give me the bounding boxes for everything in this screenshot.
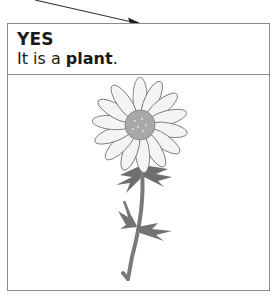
plant-illustration	[8, 75, 269, 290]
card-header: YES It is a plant.	[8, 24, 269, 75]
answer-subtitle: It is a plant.	[17, 49, 269, 69]
answer-title: YES	[17, 29, 269, 49]
answer-card: YES It is a plant.	[7, 23, 270, 291]
answer-keyword: plant	[66, 49, 113, 68]
daisy-flower-icon	[80, 77, 200, 287]
